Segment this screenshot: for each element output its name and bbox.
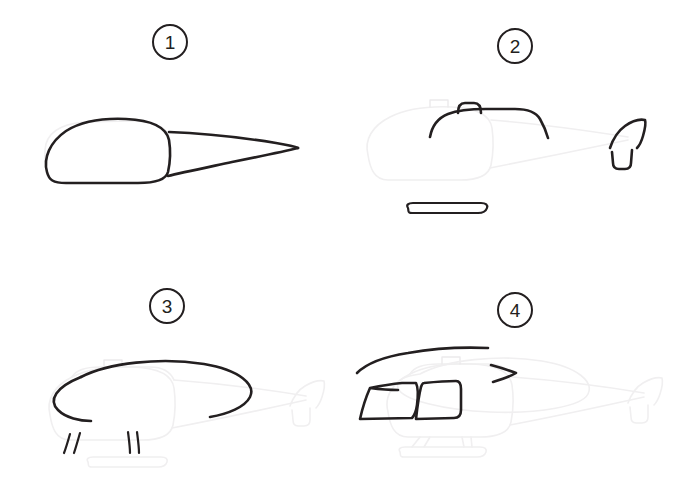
tutorial-panel-step-2: 2 xyxy=(340,0,679,238)
tutorial-panel-step-1: 1 xyxy=(0,0,339,238)
landing-skid xyxy=(407,203,487,213)
tutorial-panel-step-3: 3 xyxy=(0,240,339,477)
tail-fin-upper xyxy=(610,120,645,148)
ghost-helicopter-outline xyxy=(45,121,170,183)
drawing-canvas-step-2 xyxy=(340,0,679,238)
tail-boom-outline xyxy=(168,132,298,176)
skid-strut-front-pair xyxy=(64,433,80,453)
helicopter-drawing-tutorial-sheet: 1 2 xyxy=(0,0,679,477)
drawing-canvas-step-3 xyxy=(0,240,339,477)
drawing-canvas-step-1 xyxy=(0,0,339,238)
ghost-helicopter-outline xyxy=(367,100,628,180)
tutorial-panel-step-4: 4 xyxy=(340,240,679,477)
drawing-canvas-step-4 xyxy=(340,240,679,477)
door-window xyxy=(416,381,461,419)
ghost-helicopter-outline xyxy=(387,357,662,457)
tail-fin-lower xyxy=(612,150,632,169)
cabin-body-outline xyxy=(46,119,170,183)
skid-strut-rear-pair xyxy=(128,432,139,453)
ghost-helicopter-outline xyxy=(49,360,324,467)
